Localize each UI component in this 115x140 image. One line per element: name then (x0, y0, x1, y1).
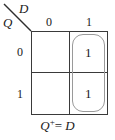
kmap-cell-q0-d1[interactable]: 1 (70, 32, 108, 73)
column-heading-0: 0 (39, 16, 59, 28)
kmap-grid: 1 1 (31, 31, 108, 115)
column-variable-label: D (19, 2, 28, 15)
kmap-cell-q1-d0[interactable] (32, 73, 70, 114)
column-heading-1: 1 (79, 16, 99, 28)
cell-value: 1 (85, 87, 92, 100)
caption-output-var: Q (40, 118, 49, 133)
kmap-cell-q1-d1[interactable]: 1 (70, 73, 108, 114)
kmap-figure: D Q 0 1 0 1 1 1 Q+= D (0, 0, 115, 140)
row-heading-1: 1 (11, 88, 29, 100)
caption-input-var: D (65, 118, 74, 133)
kmap-caption: Q+= D (0, 118, 115, 132)
caption-equals: = (55, 118, 62, 133)
row-heading-0: 0 (11, 46, 29, 58)
cell-value: 1 (85, 46, 92, 59)
kmap-cell-q0-d0[interactable] (32, 32, 70, 73)
row-variable-label: Q (3, 16, 12, 29)
kmap-corner-header: D Q (0, 0, 34, 34)
